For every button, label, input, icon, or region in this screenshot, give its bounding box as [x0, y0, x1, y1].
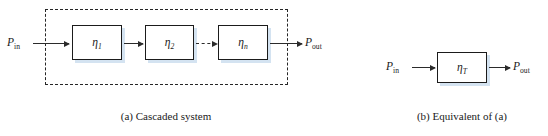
panel-a-block-eta-n: ηn [218, 25, 268, 60]
panel-a-connector-block-n-to-output [270, 43, 302, 44]
panel-a-block-eta-2: η2 [145, 25, 194, 60]
figure-block-diagram: Pin η1 η2 ηn Pout (a) Cascaded system Pi… [0, 0, 548, 136]
panel-a-block-1-label: η1 [92, 37, 102, 49]
panel-a-input-power-subscript: in [14, 42, 20, 51]
panel-a-connector-block-2-to-block-n [196, 43, 216, 44]
panel-a-connector-input-to-block-1 [33, 43, 69, 44]
panel-b-output-power-label: Pout [513, 61, 530, 73]
panel-b-input-power-symbol: P [386, 60, 393, 72]
panel-a-block-2-subscript: 2 [170, 42, 174, 51]
panel-b-connector-input-to-block [412, 67, 435, 68]
panel-b-input-power-subscript: in [393, 66, 399, 75]
panel-b-output-power-symbol: P [513, 60, 520, 72]
panel-b-connector-block-to-output [489, 67, 510, 68]
panel-a-block-1-subscript: 1 [98, 42, 102, 51]
panel-a-input-power-label: Pin [7, 37, 20, 49]
panel-a-block-2-label: η2 [165, 37, 175, 49]
panel-a-block-eta-1: η1 [72, 25, 122, 60]
panel-a-block-n-subscript: n [244, 42, 248, 51]
panel-a-output-power-symbol: P [305, 36, 312, 48]
panel-a-connector-block-1-to-block-2 [124, 43, 143, 44]
panel-b-block-eta-total: ηT [437, 52, 487, 83]
panel-a-output-power-subscript: out [312, 42, 322, 51]
panel-b-caption: (b) Equivalent of (a) [382, 110, 542, 122]
panel-a-block-n-label: ηn [238, 37, 248, 49]
panel-b-block-label: ηT [457, 62, 467, 74]
panel-a-input-power-symbol: P [7, 36, 14, 48]
panel-b-block-subscript: T [463, 67, 467, 76]
panel-b-input-power-label: Pin [386, 61, 399, 73]
panel-a-caption: (a) Cascaded system [86, 110, 246, 122]
panel-b-output-power-subscript: out [520, 66, 530, 75]
panel-a-output-power-label: Pout [305, 37, 322, 49]
